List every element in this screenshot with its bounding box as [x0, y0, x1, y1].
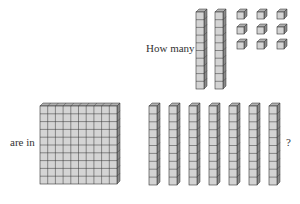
unit-cube — [257, 9, 267, 19]
unit-cube — [237, 39, 247, 49]
tens-rod — [269, 103, 280, 185]
tens-rod — [169, 103, 180, 185]
tens-rod — [149, 103, 160, 185]
tens-rod — [215, 9, 226, 89]
hundreds-flat — [40, 103, 120, 184]
tens-rod — [196, 9, 207, 89]
unit-cube — [277, 24, 287, 34]
unit-cube — [257, 39, 267, 49]
unit-cube — [277, 9, 287, 19]
tens-rod — [209, 103, 220, 185]
base-ten-blocks-figure — [0, 0, 300, 204]
tens-rod — [189, 103, 200, 185]
unit-cube — [237, 24, 247, 34]
tens-rod — [249, 103, 260, 185]
unit-cube — [277, 39, 287, 49]
tens-rod — [229, 103, 240, 185]
unit-cube — [237, 9, 247, 19]
unit-cube — [257, 24, 267, 34]
